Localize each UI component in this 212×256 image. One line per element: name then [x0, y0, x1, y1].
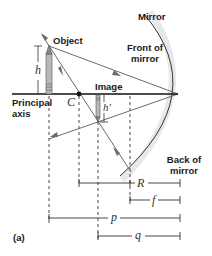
arrowhead-ray2-up — [41, 33, 48, 41]
arrowhead-ray2-return — [113, 147, 120, 156]
center-of-curvature-label: C — [66, 96, 76, 108]
object-height-label: h — [34, 64, 42, 76]
object-arrow — [46, 45, 52, 94]
focal-length-label: f — [151, 194, 156, 206]
object-distance-label: p — [110, 211, 118, 223]
concave-mirror-diagram: Object Image Mirror Front of mirror Back… — [0, 0, 212, 256]
object-label: Object — [53, 35, 83, 46]
center-point — [77, 92, 82, 97]
principal-axis-label: Principal axis — [12, 97, 52, 119]
radius-label: R — [136, 177, 145, 189]
front-of-mirror-label: Front of mirror — [125, 42, 165, 64]
diagram-canvas — [0, 0, 212, 256]
back-of-mirror-label: Back of mirror — [164, 154, 204, 176]
figure-label: (a) — [13, 232, 25, 243]
arrowhead-ray1-tail — [50, 132, 58, 137]
image-height-label: h′ — [102, 101, 112, 113]
image-distance-label: q — [134, 229, 142, 241]
image-arrow — [96, 95, 100, 123]
arrowhead-ray2-down — [58, 66, 63, 76]
mirror-label: Mirror — [138, 11, 165, 22]
image-label: Image — [95, 81, 122, 92]
